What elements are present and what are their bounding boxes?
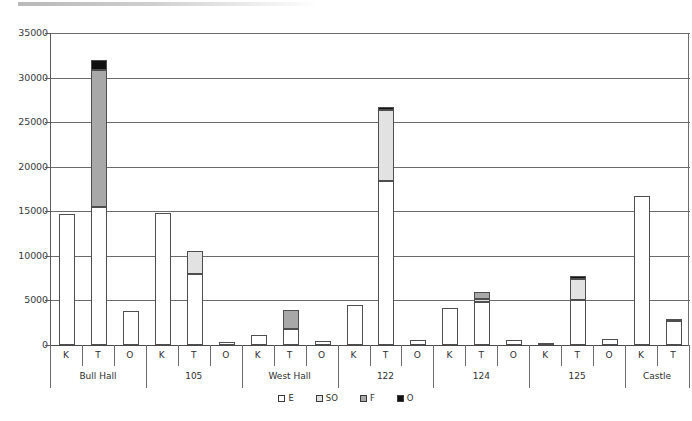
bar-segment-f <box>283 310 299 329</box>
legend-swatch-icon <box>316 395 323 402</box>
bar-segment-f <box>474 292 490 299</box>
x-axis-sub-label-o: O <box>401 349 433 361</box>
bar-segment-o <box>91 60 107 71</box>
x-axis-sub-label-o: O <box>593 349 625 361</box>
stacked-bar-chart: 35000300002500020000150001000050000 KTOK… <box>0 0 692 421</box>
x-axis-sub-label-k: K <box>242 349 274 361</box>
bar-122-t[interactable] <box>378 107 394 345</box>
bar-125-t[interactable] <box>570 276 586 345</box>
gridline <box>51 78 690 79</box>
y-axis-tick-label: 30000 <box>4 73 48 83</box>
legend-label: SO <box>326 393 338 403</box>
plot-area <box>50 33 689 345</box>
bar-west-hall-t[interactable] <box>283 310 299 345</box>
x-axis-sub-label-k: K <box>433 349 465 361</box>
bar-bull-hall-o[interactable] <box>123 311 139 345</box>
x-axis-separator <box>178 345 179 366</box>
bar-105-k[interactable] <box>155 213 171 345</box>
bar-segment-so <box>378 110 394 181</box>
x-axis-separator <box>338 345 339 366</box>
x-axis-separator <box>242 345 243 366</box>
bar-segment-o <box>570 276 586 279</box>
x-axis-separator <box>50 345 51 366</box>
bar-segment-f <box>91 70 107 206</box>
x-axis-group-label-105: 105 <box>146 370 242 382</box>
y-axis-tick-label: 35000 <box>4 28 48 38</box>
bar-segment-e <box>666 321 682 346</box>
bar-castle-t[interactable] <box>666 319 682 345</box>
x-axis-group-separator <box>529 366 530 388</box>
x-axis-sub-label-o: O <box>114 349 146 361</box>
x-axis-sub-label-t: T <box>657 349 689 361</box>
legend-label: F <box>370 393 375 403</box>
x-axis-separator <box>114 345 115 366</box>
bar-105-t[interactable] <box>187 251 203 345</box>
bar-segment-so <box>570 279 586 300</box>
bar-segment-e <box>347 305 363 345</box>
x-axis-group-separator <box>146 366 147 388</box>
bar-122-k[interactable] <box>347 305 363 345</box>
x-axis-group-label-122: 122 <box>338 370 434 382</box>
x-axis-sub-label-t: T <box>370 349 402 361</box>
y-axis-tick-label: 20000 <box>4 162 48 172</box>
legend-item-f[interactable]: F <box>360 393 375 403</box>
y-axis: 35000300002500020000150001000050000 <box>0 0 48 421</box>
x-axis-separator <box>433 345 434 366</box>
bar-bull-hall-t[interactable] <box>91 60 107 345</box>
x-axis-separator <box>689 345 690 366</box>
x-axis-sub-label-k: K <box>146 349 178 361</box>
bar-124-t[interactable] <box>474 292 490 345</box>
bar-124-k[interactable] <box>442 308 458 345</box>
bar-segment-e <box>378 181 394 345</box>
x-axis-separator <box>593 345 594 366</box>
bar-castle-k[interactable] <box>634 196 650 345</box>
bar-segment-e <box>251 335 267 345</box>
bar-west-hall-k[interactable] <box>251 335 267 345</box>
bar-segment-o <box>378 107 394 110</box>
bar-segment-e <box>570 300 586 345</box>
y-axis-tick-label: 5000 <box>4 295 48 305</box>
x-axis-separator <box>274 345 275 366</box>
x-axis-group-separator <box>625 366 626 388</box>
x-axis-group-separator <box>433 366 434 388</box>
x-axis-separator <box>657 345 658 366</box>
legend-item-so[interactable]: SO <box>316 393 338 403</box>
x-axis-sub-label-o: O <box>210 349 242 361</box>
x-axis-subcategory-row: KTOKTOKTOKTOKTOKTOKT <box>50 345 689 366</box>
gridline <box>51 256 690 257</box>
legend-label: E <box>288 393 293 403</box>
legend-swatch-icon <box>397 395 404 402</box>
x-axis-separator <box>210 345 211 366</box>
x-axis-sub-label-k: K <box>50 349 82 361</box>
x-axis-separator <box>625 345 626 366</box>
bar-segment-e <box>634 196 650 345</box>
x-axis-separator <box>370 345 371 366</box>
chart-legend: ESOFO <box>0 390 692 406</box>
gridline <box>51 167 690 168</box>
gridline <box>51 33 690 34</box>
x-axis-group-label-west-hall: West Hall <box>242 370 338 382</box>
x-axis-group-label-124: 124 <box>433 370 529 382</box>
y-axis-tick-label: 15000 <box>4 206 48 216</box>
bar-bull-hall-k[interactable] <box>59 214 75 345</box>
legend-swatch-icon <box>360 395 367 402</box>
bar-segment-e <box>187 274 203 345</box>
legend-item-e[interactable]: E <box>278 393 293 403</box>
bar-segment-o <box>666 319 682 321</box>
gridline <box>51 122 690 123</box>
x-axis-group-separator <box>50 366 51 388</box>
legend-item-o[interactable]: O <box>397 393 414 403</box>
x-axis-sub-label-t: T <box>561 349 593 361</box>
x-axis-group-label-castle: Castle <box>625 370 689 382</box>
x-axis-separator <box>306 345 307 366</box>
bar-segment-e <box>283 329 299 345</box>
y-axis-tick-label: 25000 <box>4 117 48 127</box>
x-axis-sub-label-t: T <box>465 349 497 361</box>
x-axis-group-separator <box>242 366 243 388</box>
x-axis-separator <box>561 345 562 366</box>
x-axis-separator <box>497 345 498 366</box>
x-axis-group-separator <box>689 366 690 388</box>
gridline <box>51 211 690 212</box>
bar-segment-e <box>155 213 171 345</box>
legend-swatch-icon <box>278 395 285 402</box>
